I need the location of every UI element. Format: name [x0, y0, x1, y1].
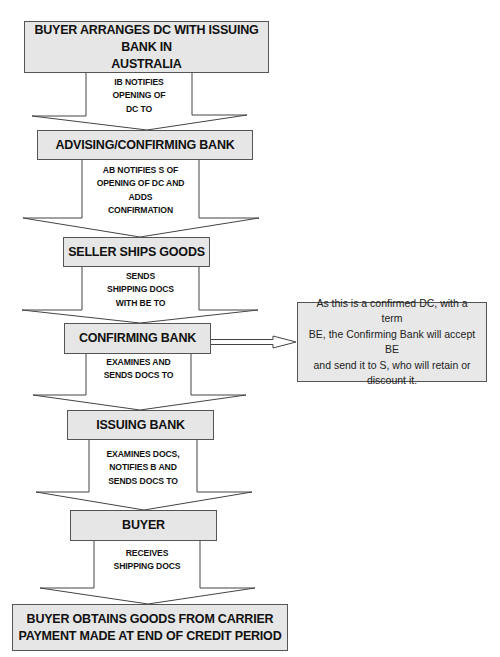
arrow-label-line: SENDS DOCS TO [89, 475, 197, 488]
arrow-label-line: SENDS [82, 270, 199, 283]
stage-text-line: CONFIRMING BANK [79, 330, 196, 347]
arrow-label-line: IB NOTIFIES [86, 76, 192, 89]
stage-buyer-obtains-goods: BUYER OBTAINS GOODS FROM CARRIER PAYMENT… [12, 604, 288, 651]
note-text-line: As this is a confirmed DC, with a term [308, 296, 476, 327]
arrow-label-3: SENDS SHIPPING DOCS WITH BE TO [82, 270, 199, 310]
arrow-label-line: WITH BE TO [82, 297, 199, 310]
arrow-label-line: OPENING OF DC AND [82, 177, 199, 190]
stage-seller-ships-goods: SELLER SHIPS GOODS [63, 237, 210, 267]
stage-text-line: BUYER ARRANGES DC WITH ISSUING BANK IN [25, 22, 268, 56]
arrow-label-line: EXAMINES DOCS, [89, 448, 197, 461]
stage-text-line: PAYMENT MADE AT END OF CREDIT PERIOD [19, 628, 282, 645]
arrow-label-1: IB NOTIFIES OPENING OF DC TO [86, 76, 192, 116]
arrow-label-5: EXAMINES DOCS, NOTIFIES B AND SENDS DOCS… [89, 448, 197, 488]
arrow-label-line: DC TO [86, 103, 192, 116]
stage-text-line: AUSTRALIA [25, 56, 268, 73]
note-text-line: discount it. [308, 373, 476, 389]
stage-buyer-arranges-dc: BUYER ARRANGES DC WITH ISSUING BANK IN A… [24, 21, 269, 73]
stage-text-line: ADVISING/CONFIRMING BANK [55, 137, 234, 154]
stage-text-line: ISSUING BANK [96, 417, 185, 434]
arrow-label-line: NOTIFIES B AND [89, 461, 197, 474]
arrow-label-line: AB NOTIFIES S OF [82, 164, 199, 177]
arrow-label-4: EXAMINES AND SENDS DOCS TO [86, 356, 191, 383]
stage-confirming-bank: CONFIRMING BANK [64, 323, 211, 354]
stage-text-line: SELLER SHIPS GOODS [68, 244, 205, 261]
note-text-line: BE, the Confirming Bank will accept BE [308, 327, 476, 358]
arrow-label-line: EXAMINES AND [86, 356, 191, 369]
arrow-label-6: RECEIVES SHIPPING DOCS [94, 547, 200, 574]
stage-issuing-bank: ISSUING BANK [67, 410, 214, 440]
arrow-label-line: ADDS [82, 191, 199, 204]
arrow-label-line: CONFIRMATION [82, 204, 199, 217]
stage-text-line: BUYER [122, 517, 165, 534]
arrow-label-line: RECEIVES [94, 547, 200, 560]
side-note-confirmed-dc: As this is a confirmed DC, with a term B… [297, 302, 487, 382]
stage-buyer: BUYER [70, 510, 217, 541]
arrow-label-2: AB NOTIFIES S OF OPENING OF DC AND ADDS … [82, 164, 199, 218]
arrow-label-line: SHIPPING DOCS [94, 560, 200, 573]
side-arrow [205, 336, 296, 348]
stage-text-line: BUYER OBTAINS GOODS FROM CARRIER [19, 611, 282, 628]
arrow-label-line: OPENING OF [86, 89, 192, 102]
stage-advising-confirming-bank: ADVISING/CONFIRMING BANK [37, 130, 253, 160]
note-text-line: and send it to S, who will retain or [308, 358, 476, 374]
arrow-label-line: SHIPPING DOCS [82, 283, 199, 296]
flowchart-canvas: BUYER ARRANGES DC WITH ISSUING BANK IN A… [0, 0, 500, 657]
arrow-label-line: SENDS DOCS TO [86, 369, 191, 382]
